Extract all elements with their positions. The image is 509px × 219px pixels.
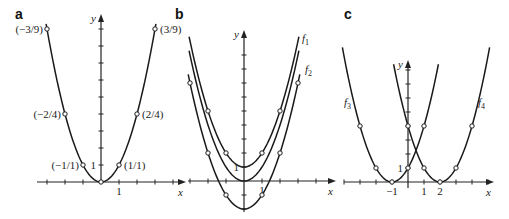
y-axis-arrow-icon: [98, 14, 104, 22]
data-point-marker: [278, 109, 282, 113]
curve-f3: [342, 47, 438, 182]
panel-label-b: b: [175, 6, 184, 22]
x-axis-arrow-icon: [178, 179, 186, 185]
y-axis-arrow-icon: [405, 60, 411, 68]
y-axis-label: y: [397, 58, 403, 70]
y-axis-label: y: [233, 28, 239, 40]
data-point-marker: [224, 193, 228, 197]
data-point-marker: [358, 124, 362, 128]
y-axis-label: y: [90, 12, 96, 24]
y-tick-label: 1: [91, 159, 97, 171]
panel-label-c: c: [344, 6, 352, 22]
point-label: (−3/9): [15, 23, 43, 36]
data-point-marker: [438, 180, 442, 184]
data-point-marker: [454, 166, 458, 170]
data-point-marker: [206, 151, 210, 155]
y-axis-arrow-icon: [241, 30, 247, 38]
series-label: f3: [344, 96, 351, 111]
panel-b-plot: xy11f1f2: [188, 28, 336, 212]
data-point-marker: [470, 124, 474, 128]
point-label: (−2/4): [33, 108, 61, 121]
data-point-marker: [390, 180, 394, 184]
data-point-marker: [278, 151, 282, 155]
x-tick-label: 1: [116, 185, 122, 197]
data-point-marker: [45, 27, 49, 31]
data-point-marker: [374, 166, 378, 170]
data-point-marker: [99, 180, 103, 184]
panel-c-plot: xy−1121f3f4: [342, 47, 494, 198]
panel-a-plot: xy11(−3/9)(−2/4)(−1/1)(1/1)(2/4)(3/9): [15, 12, 186, 198]
data-point-marker: [422, 166, 426, 170]
panel-label-a: a: [15, 6, 23, 22]
point-label: (3/9): [160, 23, 182, 36]
x-tick-label: 2: [437, 185, 443, 197]
point-label: (1/1): [124, 159, 146, 172]
x-axis-label: x: [177, 186, 183, 198]
data-point-marker: [81, 163, 85, 167]
data-point-marker: [188, 81, 192, 85]
data-point-marker: [406, 166, 410, 170]
data-point-marker: [206, 109, 210, 113]
data-point-marker: [260, 193, 264, 197]
data-point-marker: [406, 124, 410, 128]
point-label: (2/4): [142, 108, 164, 121]
data-point-marker: [117, 163, 121, 167]
data-point-marker: [224, 151, 228, 155]
data-point-marker: [63, 112, 67, 116]
x-axis-label: x: [485, 186, 491, 198]
data-point-marker: [296, 81, 300, 85]
data-point-marker: [422, 124, 426, 128]
x-axis-label: x: [327, 185, 333, 197]
x-tick-label: 1: [421, 185, 427, 197]
x-axis-arrow-icon: [486, 179, 494, 185]
series-label: f4: [478, 96, 485, 111]
y-tick-label: 1: [398, 162, 404, 174]
series-label: f2: [305, 63, 312, 78]
data-point-marker: [260, 151, 264, 155]
data-point-marker: [153, 27, 157, 31]
parabola-figure: a b c xy11(−3/9)(−2/4)(−1/1)(1/1)(2/4)(3…: [0, 0, 509, 219]
series-label: f1: [302, 32, 309, 47]
x-axis-arrow-icon: [328, 178, 336, 184]
data-point-marker: [135, 112, 139, 116]
point-label: (−1/1): [51, 159, 79, 172]
x-tick-label: −1: [386, 185, 398, 197]
